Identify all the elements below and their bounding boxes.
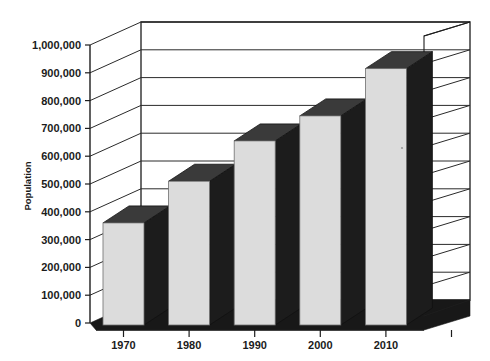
y-tick-label: 600,000 [41,150,81,162]
y-tick-label: 500,000 [41,178,81,190]
gridline-diagonal [90,22,141,45]
gridline-diagonal [90,50,141,73]
bar-2000 [300,99,367,325]
y-axis-title-text: Population [22,161,33,210]
bar-front-face [103,223,144,325]
y-axis-ticks-group: 0100,000200,000300,000400,000500,000600,… [32,39,90,329]
y-axis-title: Population [22,161,33,210]
x-tick-label: 1970 [111,339,135,351]
population-bar-chart: 0100,000200,000300,000400,000500,000600,… [0,0,490,361]
x-tick-label: 1980 [177,339,201,351]
bar-front-face [365,69,406,325]
gridline-diagonal [90,78,141,101]
bar-front-face [300,116,341,325]
x-tick-label: 2010 [374,339,398,351]
scan-speck [401,147,403,149]
y-tick-label: 800,000 [41,95,81,107]
bar-2010 [365,52,432,325]
gridline-diagonal [90,133,141,156]
bar-front-face [169,181,210,325]
y-tick-label: 1,000,000 [32,39,81,51]
y-tick-label: 700,000 [41,122,81,134]
y-tick-label: 200,000 [41,261,81,273]
bar-front-face [234,141,275,325]
y-tick-label: 300,000 [41,234,81,246]
chart-canvas: 0100,000200,000300,000400,000500,000600,… [0,0,490,361]
x-tick-label: 2000 [308,339,332,351]
bar-side-face [341,99,367,325]
x-axis-ticks-group: 19701980199020002010 [111,330,451,351]
bar-1970 [103,206,170,325]
y-tick-label: 100,000 [41,289,81,301]
y-tick-label: 900,000 [41,67,81,79]
bar-1990 [234,124,301,325]
gridline-diagonal [90,161,141,184]
bar-side-face [406,52,432,325]
y-tick-label: 0 [75,317,81,329]
bar-side-face [275,124,301,325]
gridline-diagonal [90,105,141,128]
x-tick-label: 1990 [242,339,266,351]
y-tick-label: 400,000 [41,206,81,218]
bar-1980 [169,164,236,325]
bar-side-face [144,206,170,325]
bar-side-face [210,164,236,325]
